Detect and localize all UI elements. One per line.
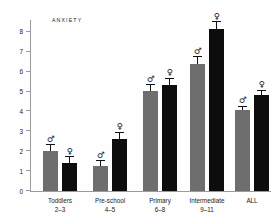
- error-bar: [197, 57, 198, 64]
- error-bar: [150, 85, 151, 91]
- y-axis-line: [30, 20, 31, 192]
- x-label-line1: Intermediate: [189, 197, 224, 204]
- female-symbol: ♀: [116, 122, 122, 131]
- error-bar-cap: [96, 160, 105, 161]
- male-symbol: ♂: [194, 47, 202, 56]
- bar-rect: [209, 29, 224, 191]
- y-tick: 0: [26, 190, 30, 191]
- error-bar: [119, 133, 120, 139]
- y-tick-label: 5: [19, 88, 23, 95]
- y-tick-label: 1: [19, 167, 23, 174]
- y-tick: 3: [26, 130, 30, 131]
- bar-rect: [93, 166, 108, 191]
- female-symbol: ♀: [166, 68, 172, 77]
- y-tick-label: 6: [19, 68, 23, 75]
- error-bar: [100, 161, 101, 165]
- female-symbol: ♀: [258, 80, 264, 89]
- bar-rect: [43, 151, 58, 191]
- bar-rect: [143, 91, 158, 191]
- bar-group: ♂♀: [190, 20, 224, 191]
- y-tick: 7: [26, 51, 30, 52]
- bar-rect: [62, 163, 77, 191]
- bar-rect: [112, 139, 127, 191]
- error-bar: [50, 145, 51, 151]
- male-symbol: ♂: [239, 96, 247, 105]
- female-symbol: ♀: [213, 12, 219, 21]
- bar-rect: [162, 85, 177, 191]
- x-label-line1: Toddlers: [48, 197, 72, 204]
- y-tick-label: 0: [19, 187, 23, 194]
- y-tick-label: 8: [19, 28, 23, 35]
- bar-rect: [254, 95, 269, 191]
- x-axis-label: ALL: [222, 197, 279, 206]
- error-bar-cap: [257, 90, 266, 91]
- error-bar: [242, 107, 243, 111]
- error-bar-cap: [165, 78, 174, 79]
- error-bar: [261, 91, 262, 95]
- y-tick-label: 4: [19, 107, 23, 114]
- error-bar-cap: [238, 106, 247, 107]
- y-tick: 6: [26, 71, 30, 72]
- error-bar-cap: [115, 132, 124, 133]
- male-symbol: ♂: [97, 151, 105, 160]
- x-label-line2: 9–11: [177, 206, 237, 215]
- y-tick-label: 2: [19, 147, 23, 154]
- male-symbol: ♂: [147, 75, 155, 84]
- y-tick: 2: [26, 150, 30, 151]
- male-symbol: ♂: [47, 135, 55, 144]
- error-bar: [69, 157, 70, 163]
- bar-group: ♂♀: [235, 20, 269, 191]
- error-bar-cap: [146, 84, 155, 85]
- x-label-line1: Pre-school: [95, 197, 125, 204]
- error-bar: [169, 79, 170, 85]
- y-tick: 1: [26, 170, 30, 171]
- bar-group: ♂♀: [43, 20, 77, 191]
- anxiety-bar-chart: ANXIETY 012345678 ♂♀♂♀♂♀♂♀♂♀ Toddlers2–3…: [0, 0, 279, 224]
- error-bar: [216, 22, 217, 29]
- bar-rect: [235, 110, 250, 191]
- y-tick-label: 7: [19, 48, 23, 55]
- y-tick: 5: [26, 91, 30, 92]
- error-bar-cap: [46, 144, 55, 145]
- bar-group: ♂♀: [143, 20, 177, 191]
- plot-area: 012345678 ♂♀♂♀♂♀♂♀♂♀: [30, 20, 271, 192]
- y-tick-label: 3: [19, 127, 23, 134]
- y-tick: 4: [26, 110, 30, 111]
- error-bar-cap: [212, 21, 221, 22]
- x-label-line1: ALL: [246, 197, 257, 204]
- bar-rect: [190, 64, 205, 191]
- bar-group: ♂♀: [93, 20, 127, 191]
- female-symbol: ♀: [66, 147, 72, 156]
- error-bar-cap: [193, 56, 202, 57]
- y-tick: 8: [26, 31, 30, 32]
- x-label-line1: Primary: [149, 197, 171, 204]
- x-axis-line: [30, 191, 271, 192]
- error-bar-cap: [65, 156, 74, 157]
